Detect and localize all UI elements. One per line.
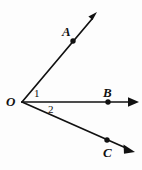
point-label-a: A — [62, 25, 71, 38]
angle-label-2: 2 — [48, 104, 54, 115]
angle-label-1: 1 — [34, 88, 40, 99]
point-label-c: C — [103, 146, 112, 159]
point-c-dot — [104, 137, 109, 142]
vertex-label-o: O — [6, 95, 15, 108]
angle-diagram: O A B C 1 2 — [0, 0, 142, 170]
ray-oa-arrowhead-icon — [88, 12, 97, 20]
point-b-dot — [105, 99, 110, 104]
point-label-b: B — [103, 86, 112, 99]
ray-oa-line — [22, 19, 92, 102]
ray-ob-arrowhead-icon — [128, 97, 139, 107]
ray-oc-arrowhead-icon — [124, 144, 136, 153]
diagram-canvas — [0, 0, 142, 170]
ray-ob-group — [22, 97, 139, 107]
ray-oc-line — [22, 102, 126, 148]
ray-oc-group — [22, 102, 135, 154]
point-a-dot — [70, 38, 75, 43]
